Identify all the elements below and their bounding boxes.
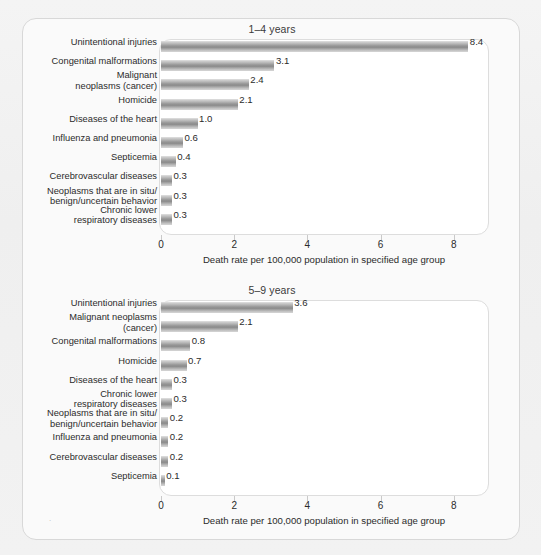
x-axis-title: Death rate per 100,000 population in spe… bbox=[99, 515, 541, 526]
category-label: Congenital malformations bbox=[0, 56, 157, 66]
category-label: Diseases of the heart bbox=[0, 114, 157, 124]
category-label: Cerebrovascular diseases bbox=[0, 171, 157, 181]
bar-value-label: 0.3 bbox=[173, 374, 186, 385]
bar-value-label: 3.1 bbox=[276, 55, 289, 66]
bar-value-label: 2.1 bbox=[239, 316, 252, 327]
x-axis: Death rate per 100,000 population in spe… bbox=[159, 496, 489, 536]
x-axis-tick-label: 2 bbox=[219, 500, 249, 511]
bar bbox=[161, 475, 165, 486]
bar bbox=[161, 79, 249, 90]
category-label: Homicide bbox=[0, 95, 157, 105]
category-label: Malignant neoplasms (cancer) bbox=[0, 70, 157, 91]
category-label: Malignant neoplasms (cancer) bbox=[0, 312, 157, 333]
category-label: Septicemia bbox=[0, 471, 157, 481]
bar-rows: Unintentional injuries3.6Malignant neopl… bbox=[23, 302, 521, 494]
bar bbox=[161, 379, 172, 390]
bar bbox=[161, 195, 172, 206]
category-label: Chronic lower respiratory diseases bbox=[0, 205, 157, 226]
bar bbox=[161, 360, 187, 371]
bar-value-label: 0.2 bbox=[170, 431, 183, 442]
bar-value-label: 0.4 bbox=[177, 151, 190, 162]
bar-value-label: 0.8 bbox=[192, 335, 205, 346]
panel-title: 5–9 years bbox=[23, 284, 521, 296]
bar-value-label: 0.1 bbox=[166, 470, 179, 481]
bar bbox=[161, 137, 183, 148]
category-label: Unintentional injuries bbox=[0, 37, 157, 47]
corner-mark: ‧ bbox=[49, 519, 55, 523]
bar-value-label: 1.0 bbox=[199, 113, 212, 124]
bar bbox=[161, 302, 293, 313]
bar-value-label: 8.4 bbox=[470, 36, 483, 47]
category-label: Neoplasms that are in situ/ benign/uncer… bbox=[0, 186, 157, 207]
category-label: Septicemia bbox=[0, 152, 157, 162]
bar bbox=[161, 60, 274, 71]
panel-title: 1–4 years bbox=[23, 23, 521, 35]
category-label: Diseases of the heart bbox=[0, 375, 157, 385]
x-axis-tick-label: 0 bbox=[146, 239, 176, 250]
bar bbox=[161, 156, 176, 167]
category-label: Influenza and pneumonia bbox=[0, 432, 157, 442]
bar-value-label: 0.7 bbox=[188, 355, 201, 366]
category-label: Neoplasms that are in situ/ benign/uncer… bbox=[0, 408, 157, 429]
bar-value-label: 0.3 bbox=[173, 393, 186, 404]
bar-value-label: 0.3 bbox=[173, 170, 186, 181]
chart-panel-5-9-years: 5–9 years Unintentional injuries3.6Malig… bbox=[23, 280, 521, 541]
bar-value-label: 3.6 bbox=[294, 297, 307, 308]
bar-value-label: 0.3 bbox=[173, 190, 186, 201]
chart-panel-1-4-years: 1–4 years Unintentional injuries8.4Conge… bbox=[23, 19, 521, 280]
bar bbox=[161, 340, 190, 351]
bar bbox=[161, 398, 172, 409]
x-axis-tick-label: 8 bbox=[439, 239, 469, 250]
bar-value-label: 2.4 bbox=[250, 74, 263, 85]
category-label: Homicide bbox=[0, 356, 157, 366]
bar bbox=[161, 99, 238, 110]
category-label: Congenital malformations bbox=[0, 336, 157, 346]
bar bbox=[161, 456, 168, 467]
figure-card: 1–4 years Unintentional injuries8.4Conge… bbox=[22, 18, 520, 540]
x-axis-tick-label: 0 bbox=[146, 500, 176, 511]
bar bbox=[161, 436, 168, 447]
bar-rows: Unintentional injuries8.4Congenital malf… bbox=[23, 41, 521, 233]
bar-value-label: 2.1 bbox=[239, 94, 252, 105]
bar-value-label: 0.2 bbox=[170, 412, 183, 423]
bar bbox=[161, 214, 172, 225]
bar-value-label: 0.3 bbox=[173, 209, 186, 220]
bar-value-label: 0.6 bbox=[184, 132, 197, 143]
category-label: Chronic lower respiratory diseases bbox=[0, 389, 157, 410]
bar bbox=[161, 118, 198, 129]
x-axis-tick-label: 6 bbox=[366, 239, 396, 250]
bar bbox=[161, 321, 238, 332]
x-axis-tick-label: 4 bbox=[292, 239, 322, 250]
x-axis: Death rate per 100,000 population in spe… bbox=[159, 235, 489, 275]
category-label: Cerebrovascular diseases bbox=[0, 452, 157, 462]
bar bbox=[161, 417, 168, 428]
x-axis-title: Death rate per 100,000 population in spe… bbox=[99, 254, 541, 265]
bar-value-label: 0.2 bbox=[170, 451, 183, 462]
category-label: Unintentional injuries bbox=[0, 298, 157, 308]
x-axis-tick-label: 8 bbox=[439, 500, 469, 511]
x-axis-tick-label: 6 bbox=[366, 500, 396, 511]
bar bbox=[161, 41, 468, 52]
category-label: Influenza and pneumonia bbox=[0, 133, 157, 143]
bar bbox=[161, 175, 172, 186]
x-axis-tick-label: 4 bbox=[292, 500, 322, 511]
x-axis-tick-label: 2 bbox=[219, 239, 249, 250]
